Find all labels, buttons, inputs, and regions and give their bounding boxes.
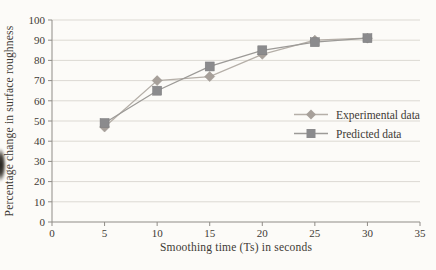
y-tick-label: 90: [34, 34, 46, 46]
y-tick-label: 0: [40, 216, 46, 228]
y-tick-label: 50: [34, 115, 46, 127]
y-tick-label: 10: [34, 196, 46, 208]
x-tick-label: 10: [152, 227, 164, 239]
y-tick-label: 60: [34, 95, 46, 107]
data-point-square: [205, 62, 214, 71]
diamond-marker-icon: [306, 110, 316, 120]
y-tick-label: 80: [34, 54, 46, 66]
predicted-swatch: [293, 127, 329, 140]
legend-label-experimental: Experimental data: [336, 109, 420, 121]
y-tick-label: 20: [34, 175, 46, 187]
legend: Experimental data Predicted data: [293, 105, 420, 143]
data-point-square: [310, 38, 319, 47]
x-tick-label: 20: [257, 227, 269, 239]
y-tick-label: 30: [34, 155, 46, 167]
data-point-square: [258, 46, 267, 55]
x-tick-label: 35: [415, 227, 427, 239]
x-axis-title: Smoothing time (Ts) in seconds: [52, 241, 420, 253]
chart-figure: 051015202530350102030405060708090100 Smo…: [0, 0, 436, 270]
square-marker-icon: [307, 129, 316, 138]
data-point-square: [100, 119, 109, 128]
experimental-swatch: [293, 108, 329, 121]
x-tick-label: 25: [309, 227, 321, 239]
y-tick-label: 40: [34, 135, 46, 147]
data-point-diamond: [205, 72, 215, 82]
y-axis-title: Percentage change in surface roughness: [3, 16, 15, 226]
x-tick-label: 5: [102, 227, 108, 239]
data-point-square: [153, 86, 162, 95]
y-tick-label: 70: [34, 74, 46, 86]
y-tick-label: 100: [29, 14, 46, 26]
x-tick-label: 30: [362, 227, 374, 239]
legend-item-experimental: Experimental data: [293, 105, 420, 124]
x-tick-label: 0: [49, 227, 55, 239]
legend-label-predicted: Predicted data: [336, 128, 401, 140]
data-point-square: [363, 34, 372, 43]
x-tick-label: 15: [204, 227, 216, 239]
legend-item-predicted: Predicted data: [293, 124, 420, 143]
